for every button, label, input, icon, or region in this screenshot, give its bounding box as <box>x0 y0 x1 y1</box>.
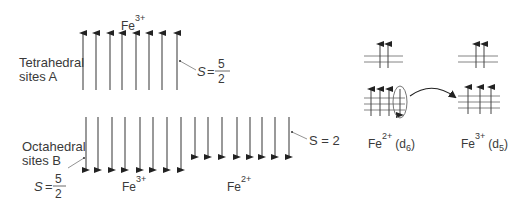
fe3-t2g-orbitals <box>458 96 500 108</box>
spin-b-eq: = <box>45 179 53 194</box>
spin-a-den: 2 <box>218 72 225 86</box>
fe3-a-label: Fe3+ <box>121 13 145 33</box>
tetrahedral-label: Tetrahedral <box>19 55 84 70</box>
spin-a-s: S <box>197 64 206 79</box>
fe2-t2g-orbitals <box>364 98 405 110</box>
octahedral-label-2: sites B <box>22 153 61 168</box>
electron-transfer-arrow <box>410 88 455 97</box>
spin-b-num: 5 <box>55 172 62 186</box>
fe3-d5-label: Fe3+(d5) <box>461 131 508 153</box>
spin-a-eq: = <box>207 64 215 79</box>
fe2-b-label: Fe2+ <box>227 174 251 194</box>
spin-fe2-label: S = 2 <box>309 133 340 148</box>
fe3-b-label: Fe3+ <box>122 174 146 194</box>
spin-a-leader <box>180 61 196 70</box>
spin-a-num: 5 <box>218 57 225 71</box>
spin-b-leader <box>68 158 84 168</box>
ferrite-spin-diagram: Fe3+ Tetrahedral sites A S = 5 2 Octahed… <box>0 0 520 207</box>
spin-b-s: S <box>34 179 43 194</box>
spin-fe2-leader <box>292 132 307 139</box>
fe2-d6-label: Fe2+(d6) <box>368 131 415 153</box>
octahedral-label: Octahedral <box>22 139 86 154</box>
sublattice-a-arrows <box>83 33 177 90</box>
sublattice-b-fe3-arrows <box>86 117 181 170</box>
fe2-eg-orbitals <box>364 56 403 62</box>
spin-b-den: 2 <box>55 187 62 201</box>
fe3-eg-orbitals <box>458 56 498 62</box>
tetrahedral-label-2: sites A <box>19 69 58 84</box>
sublattice-b-fe2-arrows <box>195 117 289 157</box>
